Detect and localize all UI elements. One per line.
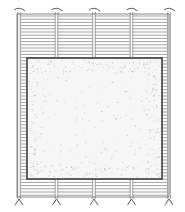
speckle [125, 169, 126, 170]
bottom-tie [53, 199, 61, 205]
speckle [57, 77, 58, 78]
speckle [33, 163, 34, 164]
speckle [96, 157, 97, 158]
speckle [145, 68, 146, 69]
speckle [155, 60, 156, 61]
speckle [93, 62, 94, 63]
speckle [77, 118, 78, 119]
speckle [147, 63, 148, 64]
speckle [150, 172, 151, 173]
speckle [35, 149, 36, 150]
speckle [31, 89, 32, 90]
speckle [33, 131, 34, 132]
speckle [156, 89, 157, 90]
speckle [54, 66, 55, 67]
speckle [112, 156, 113, 157]
speckle [157, 132, 158, 133]
speckle [34, 149, 35, 150]
speckle [54, 61, 55, 62]
speckle [71, 167, 72, 168]
speckle [143, 65, 144, 66]
speckle [33, 166, 34, 167]
speckle [128, 62, 129, 63]
speckle [70, 71, 71, 72]
speckle [76, 168, 77, 169]
speckle [89, 120, 90, 121]
speckle [82, 119, 83, 120]
speckle [42, 88, 43, 89]
speckle [84, 113, 85, 114]
speckle [30, 147, 31, 148]
speckle [96, 163, 97, 164]
speckle [102, 120, 103, 121]
speckle [102, 142, 103, 143]
speckle [139, 130, 140, 131]
speckle [30, 101, 31, 102]
speckle [36, 138, 37, 139]
speckle [138, 147, 139, 148]
speckle [69, 150, 70, 151]
speckle [133, 143, 134, 144]
speckle [65, 71, 66, 72]
speckle [149, 68, 150, 69]
speckle [39, 171, 40, 172]
top-tie [14, 8, 25, 11]
speckle [35, 95, 36, 96]
speckle [32, 66, 33, 67]
speckle [41, 127, 42, 128]
speckle [61, 61, 62, 62]
speckle [33, 91, 34, 92]
speckle [30, 73, 31, 74]
speckle [88, 61, 89, 62]
speckle [159, 174, 160, 175]
speckle [146, 92, 147, 93]
speckle [146, 115, 147, 116]
speckle [144, 72, 145, 73]
speckle [64, 102, 65, 103]
sheet-body [27, 58, 162, 179]
speckle [96, 176, 97, 177]
paper-sheet [27, 58, 162, 179]
speckle [37, 85, 38, 86]
speckle [124, 66, 125, 67]
speckle [44, 101, 45, 102]
speckle [93, 163, 94, 164]
speckle [41, 171, 42, 172]
speckle [31, 86, 32, 87]
speckle [49, 94, 50, 95]
speckle [55, 171, 56, 172]
speckle [45, 71, 46, 72]
speckle [29, 153, 30, 154]
speckle [150, 62, 151, 63]
speckle [139, 60, 140, 61]
speckle [60, 163, 61, 164]
speckle [148, 173, 149, 174]
speckle [103, 67, 104, 68]
speckle [94, 127, 95, 128]
speckle [35, 101, 36, 102]
speckle [50, 63, 51, 64]
speckle [35, 114, 36, 115]
speckle [148, 168, 149, 169]
speckle [49, 175, 50, 176]
speckle [78, 66, 79, 67]
speckle [148, 170, 149, 171]
speckle [37, 164, 38, 165]
speckle [104, 87, 105, 88]
top-tie [127, 8, 138, 11]
speckle [76, 147, 77, 148]
speckle [32, 104, 33, 105]
speckle [151, 166, 152, 167]
speckle [110, 167, 111, 168]
speckle [84, 176, 85, 177]
speckle [37, 83, 38, 84]
speckle [29, 128, 30, 129]
speckle [153, 109, 154, 110]
speckle [85, 157, 86, 158]
speckle [135, 126, 136, 127]
speckle [107, 61, 108, 62]
speckle [147, 109, 148, 110]
speckle [93, 63, 94, 64]
speckle [79, 155, 80, 156]
speckle [36, 170, 37, 171]
